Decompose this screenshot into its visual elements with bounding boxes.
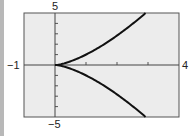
y-min-label: −5 xyxy=(48,119,61,130)
x-min-label: −1 xyxy=(7,60,20,71)
y-max-label: 5 xyxy=(52,1,58,12)
chart-plot xyxy=(0,0,192,136)
x-max-label: 4 xyxy=(182,60,188,71)
